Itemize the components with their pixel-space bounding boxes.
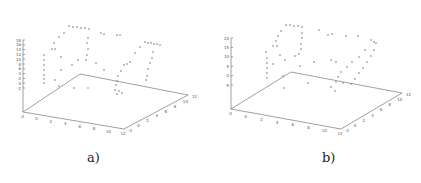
svg-text:2: 2 — [362, 118, 365, 123]
svg-text:4: 4 — [64, 121, 67, 126]
svg-text:0: 0 — [137, 123, 140, 128]
svg-text:0: 0 — [226, 73, 229, 78]
z-tick-labels: -505101520 — [224, 36, 233, 88]
svg-text:10: 10 — [16, 57, 22, 62]
svg-text:8: 8 — [93, 126, 96, 131]
svg-text:18: 18 — [16, 38, 22, 43]
svg-text:-2: -2 — [345, 128, 349, 133]
svg-text:2: 2 — [18, 76, 21, 81]
svg-text:-5: -5 — [225, 83, 229, 88]
svg-text:6: 6 — [292, 122, 295, 127]
svg-text:4: 4 — [155, 113, 158, 118]
x-tick-labels: -2024681012 — [20, 114, 126, 136]
svg-text:14: 14 — [16, 47, 22, 52]
svg-text:6: 6 — [18, 66, 21, 71]
base-plane — [231, 72, 402, 129]
svg-text:6: 6 — [165, 109, 168, 114]
svg-text:15: 15 — [224, 45, 230, 50]
svg-text:12: 12 — [192, 94, 198, 99]
svg-text:2: 2 — [146, 118, 149, 123]
base-plane — [23, 74, 188, 129]
svg-text:8: 8 — [307, 125, 310, 130]
svg-text:0: 0 — [354, 123, 357, 128]
svg-text:12: 12 — [16, 52, 22, 57]
plot-b: -505101520 -2024681012 -2024681012 — [211, 0, 421, 140]
svg-text:0: 0 — [35, 116, 38, 121]
x-tick-labels: -2024681012 — [228, 111, 343, 136]
svg-text:12: 12 — [337, 131, 343, 136]
svg-text:20: 20 — [224, 36, 230, 41]
svg-text:-2: -2 — [128, 128, 132, 133]
svg-text:-2: -2 — [228, 111, 232, 116]
y-tick-labels: -2024681012 — [128, 94, 198, 133]
svg-text:10: 10 — [397, 97, 403, 102]
svg-text:6: 6 — [380, 107, 383, 112]
svg-text:12: 12 — [120, 131, 126, 136]
svg-text:8: 8 — [174, 104, 177, 109]
svg-text:10: 10 — [322, 128, 328, 133]
plot-a-canvas: -2024681012141618 -2024681012 -202468101… — [0, 0, 210, 140]
svg-text:0: 0 — [244, 114, 247, 119]
svg-text:10: 10 — [106, 129, 112, 134]
svg-text:8: 8 — [18, 62, 21, 67]
svg-text:10: 10 — [224, 54, 230, 59]
svg-text:12: 12 — [406, 92, 412, 97]
svg-text:2: 2 — [50, 119, 53, 124]
svg-text:2: 2 — [260, 117, 263, 122]
svg-text:4: 4 — [18, 71, 21, 76]
svg-text:10: 10 — [183, 99, 189, 104]
plot-b-canvas: -505101520 -2024681012 -2024681012 — [211, 0, 421, 140]
caption-b: b) — [322, 150, 335, 165]
svg-text:8: 8 — [389, 102, 392, 107]
svg-text:4: 4 — [276, 120, 279, 125]
svg-text:4: 4 — [371, 113, 374, 118]
data-points — [265, 24, 377, 92]
svg-text:-2: -2 — [20, 114, 24, 119]
svg-text:5: 5 — [226, 64, 229, 69]
svg-text:0: 0 — [18, 81, 21, 86]
y-tick-labels: -2024681012 — [345, 92, 412, 133]
caption-a: a) — [87, 150, 100, 165]
plot-a: -2024681012141618 -2024681012 -202468101… — [0, 0, 210, 140]
svg-text:6: 6 — [78, 124, 81, 129]
z-tick-labels: -2024681012141618 — [16, 38, 25, 91]
svg-text:-2: -2 — [17, 86, 21, 91]
svg-text:16: 16 — [16, 42, 22, 47]
data-points — [43, 25, 161, 95]
